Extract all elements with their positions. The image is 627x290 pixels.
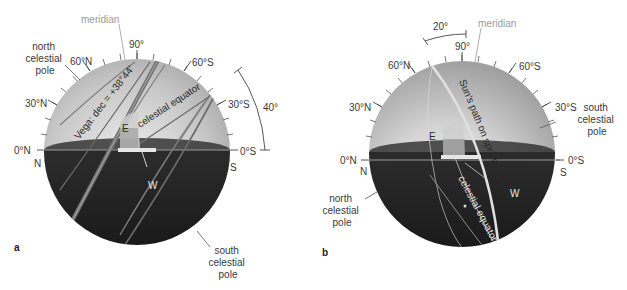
panel-a: meridian 90° 60°N 60°S 30°N 30°S 0°N 0°S…	[14, 14, 278, 280]
label-west: W	[148, 180, 158, 191]
label-south: S	[230, 162, 237, 173]
label-60n: 60°N	[70, 56, 92, 67]
label-90: 90°	[455, 41, 470, 52]
label-60s: 60°S	[519, 61, 541, 72]
label-90: 90°	[129, 39, 144, 50]
label-0s: 0°S	[240, 146, 257, 157]
south-celestial-pole-label: south celestial pole	[209, 245, 248, 280]
label-0n: 0°N	[340, 155, 357, 166]
label-60n: 60°N	[388, 60, 410, 71]
label-north: N	[34, 158, 41, 169]
meridian-leader	[475, 28, 481, 62]
label-0n: 0°N	[14, 145, 31, 156]
panel-label-b: b	[322, 247, 328, 258]
north-pole-leader	[365, 192, 377, 199]
south-pole-leader	[197, 231, 210, 247]
label-east: E	[429, 131, 436, 142]
meridian-label: meridian	[478, 18, 516, 29]
angle-label-40: 40°	[263, 102, 278, 113]
north-celestial-pole-label: north celestial pole	[26, 41, 65, 76]
meridian-label: meridian	[81, 14, 119, 25]
label-30s: 30°S	[228, 99, 250, 110]
label-south: S	[560, 167, 567, 178]
celestial-pole-dot	[464, 205, 467, 208]
north-pole-leader	[65, 65, 80, 80]
label-30n: 30°N	[349, 102, 371, 113]
label-0s: 0°S	[568, 155, 585, 166]
north-celestial-pole-label: north celestial pole	[323, 193, 362, 228]
panel-label-a: a	[14, 242, 20, 253]
label-north: N	[360, 166, 367, 177]
label-60s: 60°S	[192, 57, 214, 68]
panel-b: meridian 20° 90° 60°N 60°S 30°N 30°S 0°N…	[322, 18, 616, 262]
label-30n: 30°N	[25, 98, 47, 109]
south-celestial-pole-label: south celestial pole	[578, 102, 617, 137]
label-east: E	[122, 123, 129, 134]
label-30s: 30°S	[555, 102, 577, 113]
angle-label-20: 20°	[433, 21, 448, 32]
celestial-sphere-figure: meridian 90° 60°N 60°S 30°N 30°S 0°N 0°S…	[0, 0, 627, 290]
